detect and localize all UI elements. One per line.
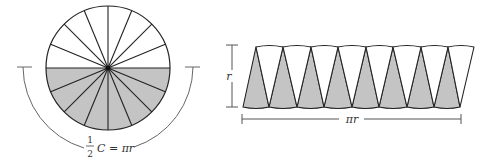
arc-formula: C = πr [97,142,135,155]
rearranged-strip [243,46,474,109]
center-point [106,66,111,71]
fraction-numerator: 1 [87,135,93,145]
height-label: r [226,70,232,83]
half-circumference-label: 1 2 C = πr [86,135,135,159]
fraction-denominator: 2 [87,149,93,159]
width-label: πr [345,113,359,126]
circle-area-diagram: 1 2 C = πr [0,0,489,166]
sectored-circle [46,6,170,130]
